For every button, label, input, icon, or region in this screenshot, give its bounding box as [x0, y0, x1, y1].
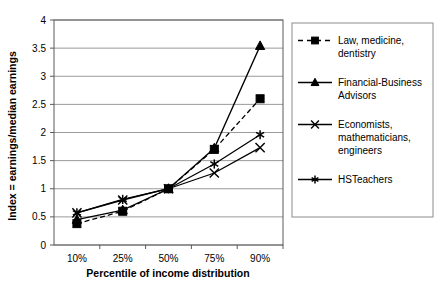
x-tick-label: 25%: [113, 253, 133, 264]
legend-label: Economists,: [338, 119, 392, 130]
legend-label: Advisors: [338, 90, 376, 101]
y-tick-label: 1.5: [32, 155, 46, 166]
legend-label: mathematicians,: [338, 132, 411, 143]
income-percentile-line-chart: 00.511.522.533.54 10%25%50%75%90% Law, m…: [0, 0, 441, 290]
chart-legend: Law, medicine,dentistryFinancial-Busines…: [292, 23, 433, 217]
legend-label: HSTeachers: [338, 174, 392, 185]
y-tick-label: 3: [40, 71, 46, 82]
y-axis-title: Index = earnings/median earnings: [6, 51, 18, 221]
legend-label: Law, medicine,: [338, 35, 404, 46]
y-tick-label: 0: [40, 240, 46, 251]
y-tick-label: 4: [40, 15, 46, 26]
legend-label: dentistry: [338, 48, 376, 59]
chart-figure: 00.511.522.533.54 10%25%50%75%90% Law, m…: [0, 0, 441, 290]
x-tick-label: 50%: [158, 253, 178, 264]
y-tick-label: 2: [40, 127, 46, 138]
y-tick-label: 3.5: [32, 43, 46, 54]
data-point-square: [312, 37, 319, 44]
x-tick-label: 90%: [250, 253, 270, 264]
legend-label: engineers: [338, 145, 382, 156]
x-tick-label: 10%: [67, 253, 87, 264]
data-point-square: [256, 95, 264, 103]
x-tick-label: 75%: [204, 253, 224, 264]
legend-label: Financial-Business: [338, 77, 422, 88]
y-tick-label: 0.5: [32, 211, 46, 222]
y-tick-label: 2.5: [32, 99, 46, 110]
x-axis-title: Percentile of income distribution: [86, 267, 249, 279]
y-tick-label: 1: [40, 183, 46, 194]
